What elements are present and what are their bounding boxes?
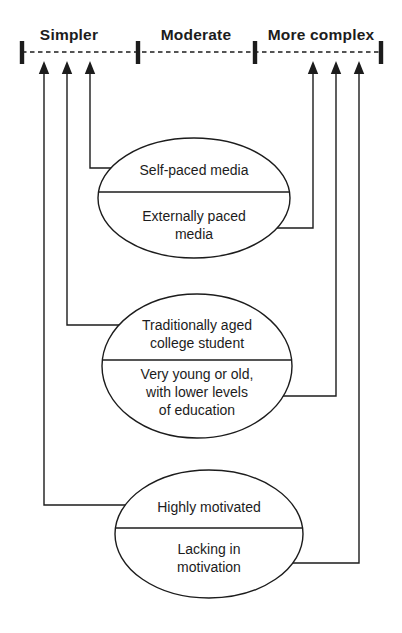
arrow-up-icon <box>308 61 318 74</box>
media-bottom-label: Externally paced media <box>104 207 284 243</box>
arrow-up-icon <box>85 61 95 74</box>
scale-tick <box>379 41 383 64</box>
arrow-up-icon <box>39 61 49 74</box>
age-bottom-label: Very young or old, with lower levels of … <box>107 365 287 419</box>
age-top-label: Traditionally aged college student <box>107 316 287 352</box>
diagram-canvas: Simpler Moderate More complex Self-paced… <box>0 0 402 633</box>
media-top-label: Self-paced media <box>104 161 284 179</box>
connector-motivated-to-simpler <box>44 74 150 505</box>
scale-tick <box>20 41 24 64</box>
scale-tick <box>253 41 257 64</box>
scale-tick <box>136 41 140 64</box>
scale-label-more-complex: More complex <box>268 26 375 44</box>
ellipse-motivation <box>115 470 303 598</box>
arrow-up-icon <box>62 61 72 74</box>
scale-label-moderate: Moderate <box>161 26 232 44</box>
scale-label-simpler: Simpler <box>40 26 98 44</box>
arrow-up-icon <box>354 61 364 74</box>
motivation-bottom-label: Lacking in motivation <box>119 540 299 576</box>
arrow-up-icon <box>331 61 341 74</box>
motivation-top-label: Highly motivated <box>119 498 299 516</box>
